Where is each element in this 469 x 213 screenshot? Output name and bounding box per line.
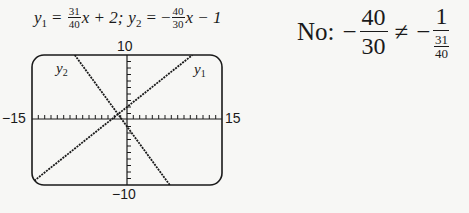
y-max-label: 10 xyxy=(117,38,133,54)
line-y1-label: y1 xyxy=(192,61,206,79)
calculator-graph: y2 y1 xyxy=(0,0,469,213)
line-y2-label: y2 xyxy=(54,60,68,78)
x-min-label: −15 xyxy=(2,110,26,126)
y-min-label: −10 xyxy=(112,186,136,202)
x-max-label: 15 xyxy=(225,110,241,126)
line-y2 xyxy=(75,55,170,185)
